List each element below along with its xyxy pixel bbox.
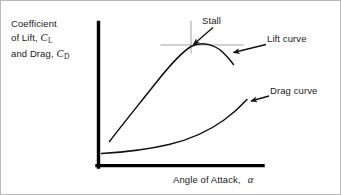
y-axis-label-line-1: Coefficient — [11, 17, 95, 31]
drag-curve-annotation-label: Drag curve — [270, 85, 317, 98]
x-axis-label-text: Angle of Attack, — [173, 174, 241, 185]
y-axis-label-line-2: of Lift, CL — [11, 31, 95, 48]
x-axis-label: Angle of Attack,α — [173, 174, 253, 187]
y-axis-label: Coefficient of Lift, CL and Drag, CD — [11, 17, 95, 64]
drag-coefficient-subscript: D — [63, 52, 69, 61]
drag-curve-path — [102, 100, 248, 154]
stall-arrow — [194, 28, 214, 45]
drag-curve-arrow — [251, 96, 269, 101]
y-axis-label-line-3-prefix: and Drag, — [11, 48, 56, 59]
lift-coefficient-subscript: L — [48, 36, 53, 45]
stall-annotation-label: Stall — [202, 15, 221, 28]
lift-curve-arrow — [234, 45, 267, 53]
axes — [97, 23, 263, 168]
y-axis-label-line-2-prefix: of Lift, — [11, 32, 40, 43]
y-axis-label-line-3: and Drag, CD — [11, 47, 95, 64]
lift-drag-diagram: Coefficient of Lift, CL and Drag, CD Ang… — [0, 0, 341, 195]
lift-curve-annotation-label: Lift curve — [267, 33, 307, 46]
alpha-symbol: α — [241, 174, 254, 185]
lift-coefficient-symbol: C — [40, 32, 47, 43]
